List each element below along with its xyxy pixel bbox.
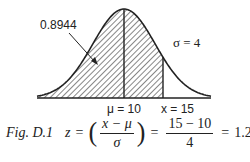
equals-sign: =	[150, 125, 158, 141]
z-value-fraction: 15 − 10 4	[166, 117, 213, 150]
area-value-label: 0.8944	[40, 18, 77, 32]
figure-caption: Fig. D.1 z = ( x − μ σ ) = 15 − 10 4 = 1…	[6, 113, 250, 153]
value-denominator: 4	[186, 134, 193, 150]
z-result: 1.25.	[234, 125, 250, 141]
open-paren: (	[88, 119, 97, 146]
equals-sign: =	[221, 125, 229, 141]
formula-denominator: σ	[113, 134, 120, 150]
formula-numerator: x − μ	[100, 117, 134, 134]
sigma-label: σ = 4	[173, 35, 201, 50]
value-numerator: 15 − 10	[166, 117, 213, 134]
equals-sign: =	[76, 125, 84, 141]
z-symbol: z	[65, 125, 70, 141]
figure-number: Fig. D.1	[6, 125, 53, 141]
close-paren: )	[137, 119, 146, 146]
z-formula-fraction: x − μ σ	[100, 117, 134, 150]
